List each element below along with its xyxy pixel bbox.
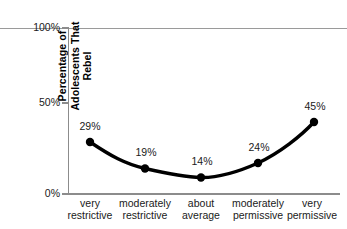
- data-point-0: [86, 138, 94, 146]
- x-category-label-4-line-2: permissive: [277, 210, 347, 222]
- data-point-2: [197, 173, 205, 181]
- data-label-4: 45%: [287, 101, 343, 112]
- data-label-3: 24%: [231, 142, 287, 153]
- data-point-1: [141, 164, 149, 172]
- x-category-label-4-line-1: very: [277, 198, 347, 210]
- data-label-1: 19%: [118, 147, 174, 158]
- data-label-2: 14%: [174, 156, 230, 167]
- data-point-4: [310, 118, 318, 126]
- data-label-0: 29%: [62, 121, 118, 132]
- plot-area: [0, 0, 347, 229]
- data-point-3: [254, 159, 262, 167]
- chart-figure: Percentage of Adolescents That Rebel 100…: [0, 0, 347, 229]
- x-category-label-4: very permissive: [277, 198, 347, 221]
